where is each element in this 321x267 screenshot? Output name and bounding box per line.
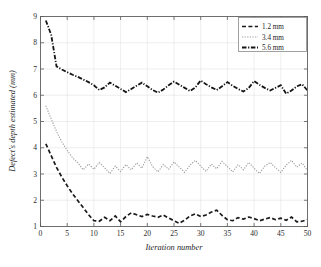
x-tick-label: 25 (170, 229, 178, 238)
x-tick-label: 10 (90, 229, 98, 238)
x-tick-label: 15 (117, 229, 125, 238)
y-tick-label: 6 (33, 91, 37, 100)
legend-label-3: 5.6 mm (262, 44, 284, 52)
chart-figure: 05101520253035404550 123456789 Iteration… (0, 0, 321, 267)
x-tick-label: 0 (39, 229, 43, 238)
y-tick-label: 1 (33, 222, 37, 231)
x-axis-title: Iteration number (145, 243, 204, 252)
legend-label-1: 1.2 mm (262, 23, 284, 31)
y-tick-label: 4 (33, 143, 37, 152)
x-tick-label: 20 (144, 229, 152, 238)
line-chart: 05101520253035404550 123456789 Iteration… (0, 0, 321, 267)
y-tick-label: 9 (33, 12, 37, 21)
y-tick-label: 5 (33, 117, 37, 126)
x-tick-label: 45 (277, 229, 285, 238)
x-tick-label: 40 (250, 229, 258, 238)
y-tick-label: 8 (33, 38, 37, 47)
x-tick-label: 30 (197, 229, 205, 238)
y-tick-labels: 123456789 (33, 12, 37, 231)
x-tick-label: 5 (65, 229, 69, 238)
legend-label-2: 3.4 mm (262, 34, 284, 42)
x-tick-label: 35 (224, 229, 232, 238)
chart-legend: 1.2 mm3.4 mm5.6 mm (239, 18, 307, 53)
x-tick-label: 50 (304, 229, 312, 238)
y-tick-label: 2 (33, 196, 37, 205)
y-axis-title: Defect's depth estimated (mm) (8, 70, 17, 173)
y-tick-label: 3 (33, 170, 37, 179)
y-tick-label: 7 (33, 65, 37, 74)
